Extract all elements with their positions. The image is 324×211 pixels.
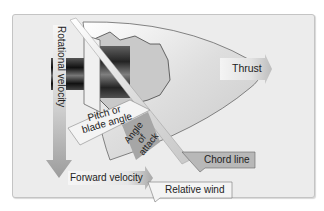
thrust-label: Thrust bbox=[232, 63, 262, 74]
relative-wind-label: Relative wind bbox=[165, 185, 224, 195]
rotational-velocity-label: Rotational velocity bbox=[56, 26, 66, 107]
propeller-diagram-art bbox=[0, 0, 324, 211]
chord-line-label: Chord line bbox=[204, 155, 250, 165]
forward-velocity-label: Forward velocity bbox=[70, 173, 143, 183]
